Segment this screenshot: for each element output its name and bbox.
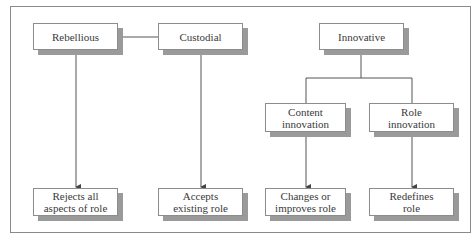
node-label: Changes orimproves role <box>275 190 336 214</box>
node-content-innovation: Contentinnovation <box>265 103 346 132</box>
node-label: Roleinnovation <box>388 106 435 130</box>
node-label: Custodial <box>179 31 221 43</box>
node-changes: Changes orimproves role <box>265 188 346 216</box>
node-custodial: Custodial <box>158 23 243 50</box>
node-label: Innovative <box>338 31 385 43</box>
node-label: Rebellious <box>52 31 99 43</box>
node-role-innovation: Roleinnovation <box>369 103 454 132</box>
node-label: Rejects allaspects of role <box>44 190 108 214</box>
node-accepts: Acceptsexisting role <box>158 188 243 216</box>
node-label: Acceptsexisting role <box>173 190 228 214</box>
node-label: Contentinnovation <box>282 106 329 130</box>
node-rebellious: Rebellious <box>33 23 118 50</box>
node-label: Redefinesrole <box>390 190 434 214</box>
node-redefines: Redefinesrole <box>369 188 454 216</box>
node-innovative: Innovative <box>319 23 404 50</box>
node-rejects: Rejects allaspects of role <box>33 188 118 216</box>
